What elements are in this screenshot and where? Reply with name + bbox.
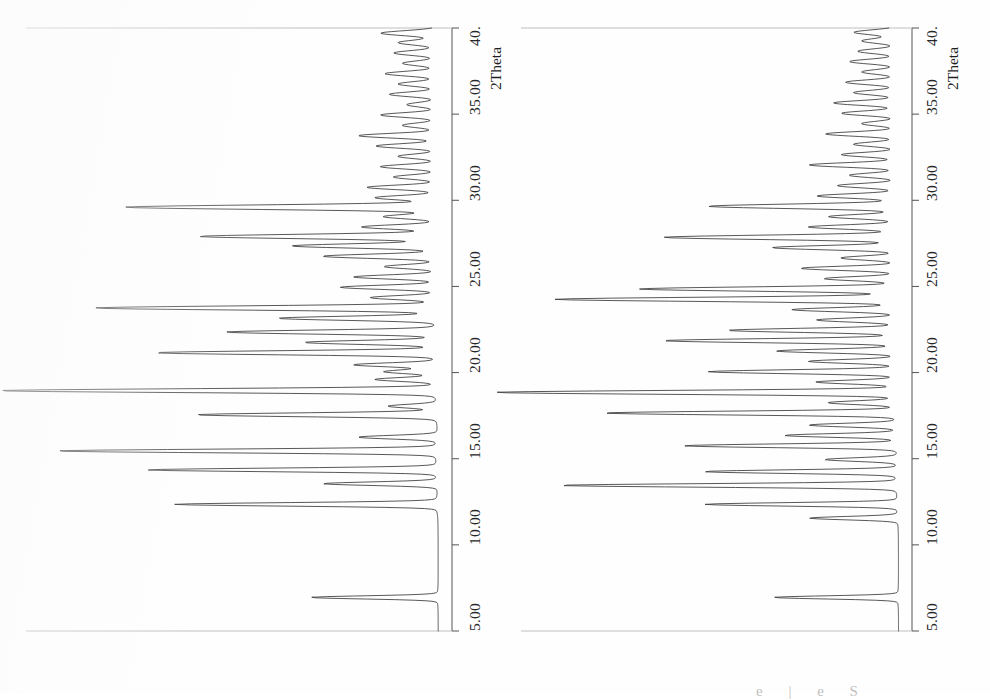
axis-tick-left-0: 5.00 [466, 603, 484, 631]
xrd-plot-right [495, 0, 990, 693]
axis-tick-left-3: 20.00 [466, 337, 484, 373]
diffraction-trace [497, 28, 898, 631]
axis-tick-left-4: 25.00 [466, 251, 484, 287]
axis-tick-left-1: 10.00 [466, 509, 484, 545]
axis-tick-right-5: 30.00 [923, 165, 941, 201]
axis-tick-left-5: 30.00 [466, 165, 484, 201]
axis-tick-right-6: 35.00 [923, 79, 941, 115]
xrd-panel-right: 5.00 10.00 15.00 20.00 25.00 30.00 35.00… [495, 0, 990, 693]
xrd-panel-left: 5.00 10.00 15.00 20.00 25.00 30.00 35.00… [0, 0, 495, 693]
axis-tick-right-1: 10.00 [923, 509, 941, 545]
axis-tick-right-2: 15.00 [923, 423, 941, 459]
axis-tick-left-6: 35.00 [466, 79, 484, 115]
axis-tick-left-2: 15.00 [466, 423, 484, 459]
axis-tick-right-3: 20.00 [923, 337, 941, 373]
diffraction-trace [3, 28, 438, 631]
axis-title-right: 2Theta [944, 47, 962, 90]
xrd-plot-left [0, 0, 495, 693]
axis-tick-right-4: 25.00 [923, 251, 941, 287]
axis-tick-right-0: 5.00 [923, 603, 941, 631]
axis-tick-left-7: 40. [466, 26, 484, 46]
edge-caption: e | e S [756, 683, 869, 700]
axis-tick-right-7: 40. [923, 26, 941, 46]
